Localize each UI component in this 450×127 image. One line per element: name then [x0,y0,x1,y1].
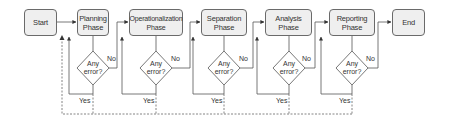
no-label: No [302,55,311,62]
start-label: Start [33,18,48,27]
no-label: No [239,55,248,62]
operationalization-phase-label: Phase [147,23,166,32]
decision-line2: error? [338,68,366,76]
end-label: End [402,18,415,27]
analysis-phase-node: Analysis Phase [265,9,312,36]
flowchart-canvas: Start Planning Phase Operationalization … [0,0,450,127]
planning-phase-node: Planning Phase [77,9,109,36]
separation-label: Separation [207,14,241,23]
decision-line2: error? [275,68,303,76]
decision-line1: Any [79,60,107,68]
decision-line2: error? [210,68,238,76]
decision-reporting: Any error? [338,60,366,76]
no-label: No [107,55,116,62]
yes-label: Yes [339,97,350,104]
reporting-phase-node: Reporting Phase [329,9,375,36]
start-node: Start [24,9,57,36]
yes-label: Yes [143,97,154,104]
decision-line2: error? [142,68,170,76]
analysis-phase-label: Phase [278,23,298,32]
yes-label: Yes [79,97,90,104]
decision-analysis: Any error? [275,60,303,76]
no-label: No [171,55,180,62]
planning-phase-label: Phase [83,23,103,32]
decision-line1: Any [210,60,238,68]
decision-planning: Any error? [79,60,107,76]
decision-line1: Any [142,60,170,68]
planning-label: Planning [79,14,107,23]
no-label: No [366,55,375,62]
yes-label: Yes [211,97,222,104]
end-node: End [392,9,425,36]
analysis-label: Analysis [275,14,301,23]
decision-line2: error? [79,68,107,76]
decision-operationalization: Any error? [142,60,170,76]
decision-separation: Any error? [210,60,238,76]
operationalization-label: Operationalization [130,14,183,23]
operationalization-phase-node: Operationalization Phase [129,9,183,36]
yes-label: Yes [276,97,287,104]
decision-line1: Any [338,60,366,68]
reporting-phase-label: Phase [342,23,362,32]
separation-phase-node: Separation Phase [201,9,247,36]
separation-phase-label: Phase [214,23,234,32]
decision-line1: Any [275,60,303,68]
reporting-label: Reporting [337,14,368,23]
